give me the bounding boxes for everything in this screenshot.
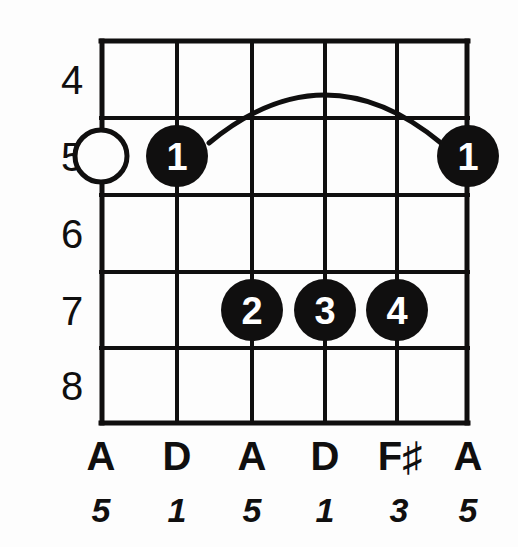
marker-string-4-fret-7[interactable]: 3	[294, 279, 356, 341]
chord-diagram-page: 4 5 6 7 8 1 1	[0, 0, 518, 547]
marker-open-string-1[interactable]	[75, 130, 127, 182]
fret-number-column: 4 5 6 7 8	[61, 58, 83, 408]
marker-string-2-fret-5[interactable]: 1	[146, 125, 208, 187]
marker-finger-label: 3	[314, 290, 335, 332]
note-name-string-5: F♯	[378, 434, 422, 478]
note-name-string-2: D	[163, 434, 192, 478]
interval-string-6: 5	[459, 491, 479, 529]
interval-string-1: 5	[92, 491, 112, 529]
fret-number-6: 6	[61, 212, 83, 256]
fret-number-8: 8	[61, 364, 83, 408]
chord-diagram: 4 5 6 7 8 1 1	[0, 0, 518, 547]
note-name-string-4: D	[311, 434, 340, 478]
interval-row: 5 1 5 1 3 5	[92, 491, 479, 529]
note-name-string-1: A	[87, 434, 116, 478]
marker-string-3-fret-7[interactable]: 2	[221, 279, 283, 341]
note-name-string-6: A	[454, 434, 483, 478]
interval-string-2: 1	[168, 491, 187, 529]
marker-string-5-fret-7[interactable]: 4	[366, 279, 428, 341]
marker-finger-label: 2	[241, 290, 262, 332]
marker-finger-label: 1	[166, 136, 187, 178]
note-name-row: A D A D F♯ A	[87, 434, 483, 478]
fret-number-4: 4	[61, 58, 83, 102]
interval-string-3: 5	[243, 491, 263, 529]
marker-string-6-fret-5[interactable]: 1	[437, 125, 499, 187]
marker-finger-label: 1	[457, 136, 478, 178]
interval-string-5: 3	[390, 491, 409, 529]
note-name-string-3: A	[238, 434, 267, 478]
interval-string-4: 1	[316, 491, 335, 529]
marker-finger-label: 4	[386, 290, 407, 332]
fret-number-7: 7	[61, 289, 83, 333]
finger-markers: 1 1 2 3 4	[75, 125, 499, 341]
